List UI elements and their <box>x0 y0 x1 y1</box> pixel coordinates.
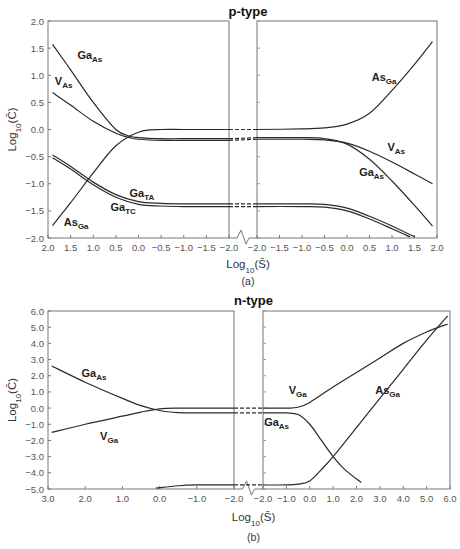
y-tick-label: 3.0 <box>31 354 44 365</box>
x-tick-label: 1.0 <box>116 493 129 504</box>
x-tick-label: −1.5 <box>197 242 216 253</box>
break-connector <box>229 139 257 140</box>
x-tick-label: −1.5 <box>270 242 289 253</box>
series-GaAs-left <box>52 366 234 413</box>
x-tick-label: 1.0 <box>385 242 398 253</box>
y-tick-label: 1.0 <box>31 386 44 397</box>
x-tick-label: 2.0 <box>430 242 443 253</box>
x-tick-label: 0.0 <box>153 493 166 504</box>
break-connector <box>229 138 257 139</box>
y-tick-label: 6.0 <box>31 306 44 317</box>
left-plot-frame <box>48 311 234 489</box>
x-axis-label: Log10(S̄) <box>232 511 276 528</box>
x-tick-label: 2.0 <box>41 242 54 253</box>
y-tick-label: −0.5 <box>25 151 44 162</box>
x-tick-label: 1.5 <box>408 242 421 253</box>
y-tick-label: 1.0 <box>31 70 44 81</box>
panel-label: (a) <box>242 275 255 287</box>
y-tick-label: −3.0 <box>25 451 44 462</box>
chart-panel-n-type: n-type6.05.04.03.02.01.00.0−1.0−2.0−3.0−… <box>6 293 457 543</box>
y-tick-label: −2.0 <box>25 435 44 446</box>
x-tick-label: 1.0 <box>327 493 340 504</box>
x-tick-label: 3.0 <box>41 493 54 504</box>
x-tick-label: 0.0 <box>132 242 145 253</box>
x-tick-label: 0.0 <box>303 493 316 504</box>
chart-canvas: p-type2.01.51.00.50.0−0.5−1.0−1.5−2.02.0… <box>0 0 460 549</box>
y-tick-label: 0.0 <box>31 403 44 414</box>
x-tick-label: −1.0 <box>277 493 296 504</box>
x-tick-label: 5.0 <box>420 493 433 504</box>
series-label-AsGa: AsGa <box>375 384 400 399</box>
series-label-VAs: VAs <box>55 75 73 90</box>
series-VAs-left <box>53 93 229 141</box>
x-tick-label: 1.5 <box>64 242 77 253</box>
x-tick-label: 0.5 <box>363 242 376 253</box>
y-tick-label: 1.5 <box>31 43 44 54</box>
chart-title: p-type <box>229 4 268 19</box>
series-label-VGa: VGa <box>289 384 308 399</box>
y-tick-label: 2.0 <box>31 16 44 27</box>
y-tick-label: −1.5 <box>25 205 44 216</box>
x-tick-label: −1.0 <box>187 493 206 504</box>
x-tick-label: 2.0 <box>79 493 92 504</box>
x-tick-label: 6.0 <box>443 493 456 504</box>
panel-label: (b) <box>247 531 260 543</box>
y-tick-label: −1.0 <box>25 419 44 430</box>
x-tick-label: −2.0 <box>220 242 239 253</box>
x-tick-label: 3.0 <box>373 493 386 504</box>
series-label-GaAs: GaAs <box>81 367 106 382</box>
y-tick-label: 0.0 <box>31 124 44 135</box>
y-axis-label: Log10(C̄) <box>6 378 23 422</box>
series-label-VGa: VGa <box>100 430 119 445</box>
x-tick-label: 2.0 <box>350 493 363 504</box>
y-tick-label: 0.5 <box>31 97 44 108</box>
y-tick-label: −4.0 <box>25 467 44 478</box>
x-tick-label: −0.5 <box>152 242 171 253</box>
right-plot-frame <box>263 311 450 489</box>
series-AsGa-right <box>257 42 433 130</box>
x-tick-label: 0.5 <box>109 242 122 253</box>
y-tick-label: 4.0 <box>31 338 44 349</box>
chart-title: n-type <box>234 293 273 308</box>
figure: p-type2.01.51.00.50.0−0.5−1.0−1.5−2.02.0… <box>0 0 460 549</box>
series-AsGa-right <box>263 316 448 485</box>
series-AsGa-left <box>53 129 229 225</box>
series-label-GaAs: GaAs <box>264 416 289 431</box>
y-tick-label: −1.0 <box>25 178 44 189</box>
series-AsGa-left <box>156 485 234 488</box>
y-tick-label: 2.0 <box>31 370 44 381</box>
chart-panel-p-type: p-type2.01.51.00.50.0−0.5−1.0−1.5−2.02.0… <box>6 4 444 287</box>
x-axis-label: Log10(S̄) <box>226 258 270 275</box>
y-tick-label: 5.0 <box>31 322 44 333</box>
series-VGa-left <box>52 408 234 432</box>
series-label-AsGa: AsGa <box>64 216 89 231</box>
x-tick-label: 0.0 <box>340 242 353 253</box>
x-tick-label: −2.0 <box>248 242 267 253</box>
y-axis-label: Log10(C̄) <box>6 107 23 151</box>
series-GaAs-right <box>257 138 433 227</box>
x-tick-label: 4.0 <box>397 493 410 504</box>
series-VAs-right <box>257 139 433 184</box>
series-label-GaAs: GaAs <box>359 166 384 181</box>
series-GaTC-right <box>257 206 410 236</box>
x-tick-label: −1.0 <box>174 242 193 253</box>
x-tick-label: −0.5 <box>315 242 334 253</box>
series-label-GaAs: GaAs <box>77 49 102 64</box>
x-tick-label: −1.0 <box>293 242 312 253</box>
x-tick-label: −2.0 <box>225 493 244 504</box>
x-tick-label: −2.0 <box>254 493 273 504</box>
series-label-VAs: VAs <box>388 141 406 156</box>
x-tick-label: 1.0 <box>87 242 100 253</box>
series-label-AsGa: AsGa <box>372 71 397 86</box>
